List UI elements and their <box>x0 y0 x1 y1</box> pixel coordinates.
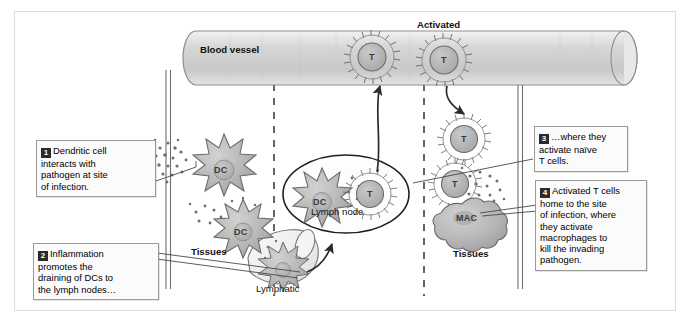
dc-label-lymph-node: DC <box>313 197 326 207</box>
t-label-vessel-right: T <box>441 55 447 65</box>
blood-vessel-label: Blood vessel <box>200 44 259 55</box>
callout-2-line-1: Inflammation <box>50 248 104 259</box>
callout-4-line-4: they activate <box>540 221 641 232</box>
dc-label-upper-left: DC <box>214 165 227 175</box>
t-label-effector: T <box>461 134 467 144</box>
lymphatic-label: Lymphatic <box>256 283 299 294</box>
mac-label: MAC <box>456 213 477 223</box>
callout-2-badge: 2 <box>38 251 48 261</box>
callout-3-line-1: …where they <box>551 131 606 142</box>
callout-4-line-1: Activated T cells <box>552 185 620 196</box>
t-label-tissue-right: T <box>452 179 458 189</box>
callout-4-line-3: of infection, where <box>540 209 641 220</box>
callout-1-badge: 1 <box>41 148 51 158</box>
callout-4-line-5: macrophages to <box>540 232 641 243</box>
callout-4-badge: 4 <box>540 188 550 198</box>
callout-1-line-1: Dendritic cell <box>53 145 107 156</box>
callout-4-line-2: home to the site <box>540 198 641 209</box>
lymph-node-label: Lymph node <box>311 206 363 217</box>
callout-4-line-6: kill the invading <box>540 243 641 254</box>
callout-1-line-3: pathogen at site <box>41 169 150 180</box>
callout-3[interactable]: 3…where they activate naïve T cells. <box>534 126 628 172</box>
callout-1-line-2: interacts with <box>41 158 150 169</box>
callout-1-line-4: of infection. <box>41 181 150 192</box>
figure-canvas: Blood vessel Activated Lymph node Lympha… <box>0 0 690 330</box>
callout-2-line-2: promotes the <box>38 261 153 272</box>
callout-4-line-7: pathogen. <box>540 254 641 265</box>
callout-2-line-4: the lymph nodes… <box>38 284 153 295</box>
callout-4[interactable]: 4Activated T cells home to the site of i… <box>535 180 647 271</box>
callout-3-line-2: activate naïve <box>539 144 622 155</box>
callout-3-line-3: T cells. <box>539 155 622 166</box>
callout-1[interactable]: 1Dendritic cell interacts with pathogen … <box>36 140 156 197</box>
callout-2-line-3: draining of DCs to <box>38 272 153 283</box>
activated-label: Activated <box>417 19 460 30</box>
callout-2[interactable]: 2Inflammation promotes the draining of D… <box>33 243 159 300</box>
t-label-lymph-node: T <box>367 189 373 199</box>
tissues-left-label: Tissues <box>191 246 227 257</box>
tissues-right-label: Tissues <box>453 248 489 259</box>
callout-3-badge: 3 <box>539 134 549 144</box>
t-label-vessel-left: T <box>369 52 375 62</box>
dc-label-lower-left: DC <box>234 227 247 237</box>
